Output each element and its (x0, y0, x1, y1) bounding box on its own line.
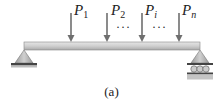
figure-caption: (a) (0, 84, 223, 100)
ellipsis-right: ··· (152, 20, 167, 35)
load-label-p1: P1 (74, 3, 88, 20)
load-label-pi: Pi (145, 3, 157, 20)
beam (24, 42, 200, 50)
pin-support-icon (11, 50, 37, 68)
load-label-p2: P2 (111, 3, 125, 20)
roller-support-icon (187, 50, 213, 80)
ellipsis-left: ··· (116, 20, 131, 35)
load-label-pn: Pn (182, 3, 196, 20)
